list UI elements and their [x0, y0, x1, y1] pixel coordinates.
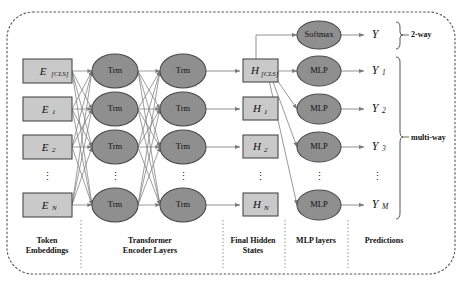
- predictions-ellipsis: ⋮: [372, 170, 383, 182]
- mlp-node-2[interactable]: MLP: [297, 94, 341, 124]
- encoder-layer-1-column: Trm Trm Trm ⋮ Trm: [92, 54, 138, 222]
- edges-encoder1-to-encoder2: [138, 71, 160, 205]
- head-layers-column: Softmax MLP MLP MLP ⋮ MLP: [297, 21, 341, 220]
- prediction-y2-base: Y: [372, 101, 380, 115]
- caption-mlp-line1: MLP layers: [296, 236, 336, 245]
- encoder1-node-n[interactable]: Trm: [92, 188, 138, 222]
- mlp-node-m-label: MLP: [310, 199, 328, 209]
- encoder-layer-2-column: Trm Trm Trm ⋮ Trm: [160, 54, 206, 222]
- mlp-node-3-label: MLP: [310, 141, 328, 151]
- prediction-y2: Y 2: [372, 101, 386, 115]
- encoder1-node-2-label: Trm: [108, 103, 123, 113]
- prediction-y3: Y 3: [372, 139, 386, 153]
- embedding-box-2-sub: 2: [52, 146, 56, 154]
- brace-2way: [396, 22, 409, 49]
- caption-token-embeddings-line2: Embeddings: [26, 246, 69, 255]
- edges-embeddings-to-encoder1: [72, 71, 92, 205]
- edges-heads-to-predictions: [341, 35, 364, 205]
- embedding-box-1-base: E: [41, 103, 49, 115]
- hidden-box-n-sub: N: [263, 204, 269, 212]
- hidden-states-ellipsis: ⋮: [255, 170, 266, 182]
- hidden-box-1[interactable]: H 1: [243, 97, 278, 120]
- hidden-box-2[interactable]: H 2: [243, 135, 278, 158]
- embedding-box-n-base: E: [41, 199, 49, 211]
- caption-token-embeddings-line1: Token: [36, 236, 58, 245]
- prediction-y1-base: Y: [372, 63, 380, 77]
- predictions-column: Y Y 1 Y 2 Y 3 ⋮ Y M: [372, 27, 390, 211]
- embedding-box-cls-base: E: [39, 65, 47, 77]
- prediction-y2-sub: 2: [382, 106, 386, 115]
- embedding-box-n[interactable]: E N: [23, 193, 72, 217]
- prediction-ym-sub: M: [381, 202, 389, 211]
- mlp-node-1-label: MLP: [310, 65, 328, 75]
- caption-hidden-line2: States: [243, 246, 263, 255]
- hidden-box-n-base: H: [252, 198, 262, 210]
- prediction-y: Y: [372, 27, 380, 41]
- embedding-box-1[interactable]: E 1: [23, 97, 72, 121]
- caption-token-embeddings: Token Embeddings: [26, 236, 69, 255]
- caption-mlp-layers: MLP layers: [296, 236, 336, 245]
- caption-final-hidden-states: Final Hidden States: [230, 236, 276, 255]
- encoder2-ellipsis: ⋮: [178, 170, 189, 182]
- hidden-box-2-sub: 2: [264, 146, 268, 154]
- caption-predictions: Predictions: [365, 236, 404, 245]
- embeddings-ellipsis: ⋮: [42, 170, 53, 182]
- encoder2-node-2-label: Trm: [176, 103, 191, 113]
- encoder1-ellipsis: ⋮: [110, 170, 121, 182]
- embedding-box-2-base: E: [41, 141, 49, 153]
- prediction-ym: Y M: [372, 197, 389, 211]
- edges-encoder2-to-hidden: [206, 71, 240, 205]
- caption-hidden-line1: Final Hidden: [230, 236, 276, 245]
- brace-multiway: [396, 57, 409, 219]
- caption-transformer-line1: Transformer: [128, 236, 172, 245]
- brace-2way-label: 2-way: [411, 30, 431, 39]
- mlp-ellipsis: ⋮: [314, 170, 325, 182]
- brace-multiway-label: multi-way: [411, 133, 446, 142]
- encoder1-node-3[interactable]: Trm: [92, 130, 138, 164]
- prediction-y-base: Y: [372, 27, 380, 41]
- hidden-box-cls-sub: [CLS]: [261, 70, 279, 78]
- hidden-box-n[interactable]: H N: [243, 193, 278, 216]
- figure-canvas: E [CLS] E 1 E 2 ⋮ E N: [0, 0, 462, 285]
- encoder1-node-1[interactable]: Trm: [92, 54, 138, 88]
- mlp-node-m[interactable]: MLP: [297, 190, 341, 220]
- column-captions: Token Embeddings Transformer Encoder Lay…: [26, 236, 404, 255]
- caption-predictions-line1: Predictions: [365, 236, 404, 245]
- edge-hcls-to-softmax: [256, 35, 297, 59]
- prediction-y3-base: Y: [372, 139, 380, 153]
- encoder2-node-n-label: Trm: [176, 199, 191, 209]
- hidden-box-cls-base: H: [250, 64, 260, 76]
- encoder1-node-2[interactable]: Trm: [92, 92, 138, 126]
- prediction-y1-sub: 1: [382, 68, 386, 77]
- encoder1-node-1-label: Trm: [108, 65, 123, 75]
- caption-transformer-line2: Encoder Layers: [123, 246, 177, 255]
- embedding-box-n-sub: N: [51, 204, 57, 212]
- hidden-box-cls[interactable]: H [CLS]: [243, 59, 279, 82]
- encoder2-node-3[interactable]: Trm: [160, 130, 206, 164]
- embedding-box-cls[interactable]: E [CLS]: [23, 59, 72, 83]
- hidden-box-1-base: H: [252, 102, 262, 114]
- encoder2-node-2[interactable]: Trm: [160, 92, 206, 126]
- embedding-box-2[interactable]: E 2: [23, 135, 72, 159]
- mlp-node-2-label: MLP: [310, 103, 328, 113]
- prediction-y1: Y 1: [372, 63, 386, 77]
- encoder2-node-n[interactable]: Trm: [160, 188, 206, 222]
- embedding-box-1-sub: 1: [52, 108, 56, 116]
- encoder2-node-1[interactable]: Trm: [160, 54, 206, 88]
- hidden-box-2-base: H: [252, 140, 262, 152]
- prediction-ym-base: Y: [372, 197, 380, 211]
- mlp-node-3[interactable]: MLP: [297, 132, 341, 162]
- encoder1-node-3-label: Trm: [108, 141, 123, 151]
- encoder2-node-1-label: Trm: [176, 65, 191, 75]
- architecture-diagram: E [CLS] E 1 E 2 ⋮ E N: [0, 0, 462, 285]
- prediction-y3-sub: 3: [381, 144, 386, 153]
- hidden-box-1-sub: 1: [264, 108, 268, 116]
- token-embeddings-column: E [CLS] E 1 E 2 ⋮ E N: [23, 59, 72, 217]
- encoder1-node-n-label: Trm: [108, 199, 123, 209]
- embedding-box-cls-sub: [CLS]: [51, 70, 69, 78]
- softmax-node[interactable]: Softmax: [297, 21, 341, 49]
- mlp-node-1[interactable]: MLP: [297, 56, 341, 86]
- caption-transformer-encoder-layers: Transformer Encoder Layers: [123, 236, 177, 255]
- encoder2-node-3-label: Trm: [176, 141, 191, 151]
- softmax-node-label: Softmax: [305, 29, 335, 39]
